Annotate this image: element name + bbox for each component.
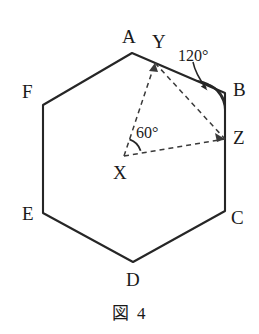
vertex-label-b: B [233, 80, 246, 99]
angle-arc-60 [130, 139, 141, 150]
dashed-segment-xy [124, 63, 155, 156]
point-label-x: X [113, 163, 127, 182]
vertex-label-f: F [22, 82, 33, 101]
point-label-z: Z [233, 128, 245, 147]
point-label-y: Y [152, 32, 166, 51]
angle-label-60: 60° [136, 125, 158, 141]
angle-label-120: 120° [178, 48, 208, 64]
vertex-label-d: D [126, 270, 140, 289]
hexagon-outline [43, 53, 225, 262]
vertex-label-e: E [22, 204, 34, 223]
leader-line-120 [193, 62, 206, 88]
figure-caption: 図 4 [0, 299, 259, 324]
dashed-segment-yz [155, 63, 225, 139]
vertex-label-c: C [231, 208, 244, 227]
angle-arc-120-inner [203, 84, 225, 106]
figure-container: A B C D E F Y Z X 60° 120° 図 4 [0, 0, 259, 334]
vertex-label-a: A [122, 27, 136, 46]
